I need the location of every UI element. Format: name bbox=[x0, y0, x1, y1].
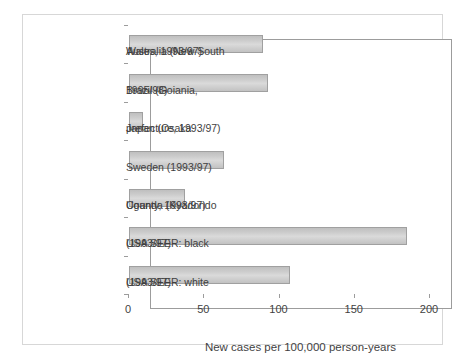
y-axis-tick bbox=[124, 25, 128, 26]
y-axis-tick bbox=[124, 256, 128, 257]
y-axis-tick bbox=[124, 217, 128, 218]
x-tick-label-200: 200 bbox=[404, 303, 454, 316]
category-label-line: Sweden (1993/97) bbox=[126, 160, 212, 175]
x-tick-label-50: 50 bbox=[178, 303, 228, 316]
category-label-line: (1993/97) bbox=[126, 236, 171, 251]
category-label-line: County, 1993/97) bbox=[126, 198, 206, 213]
y-axis-tick bbox=[124, 63, 128, 64]
y-axis-tick bbox=[124, 140, 128, 141]
x-tick-150 bbox=[354, 294, 355, 298]
x-tick-0 bbox=[128, 294, 129, 298]
x-tick-label-100: 100 bbox=[254, 303, 304, 316]
category-label-line: (1993/97) bbox=[126, 275, 171, 290]
x-tick-100 bbox=[279, 294, 280, 298]
category-label-line: prefecture, 1993/97) bbox=[126, 121, 221, 136]
category-label-line: Wales, 1993/97) bbox=[126, 44, 202, 59]
x-tick-200 bbox=[429, 294, 430, 298]
x-tick-label-150: 150 bbox=[329, 303, 379, 316]
y-axis-tick bbox=[124, 102, 128, 103]
x-axis-title: New cases per 100,000 person-years bbox=[150, 340, 451, 354]
category-label-line: 1995/98) bbox=[126, 83, 167, 98]
y-axis-tick bbox=[124, 294, 128, 295]
chart-figure-page: Australia (New SouthWales, 1993/97)Brazi… bbox=[0, 0, 459, 360]
chart-figure: Australia (New SouthWales, 1993/97)Brazi… bbox=[22, 14, 443, 345]
x-tick-label-0: 0 bbox=[103, 303, 153, 316]
y-axis-tick bbox=[124, 179, 128, 180]
x-tick-50 bbox=[203, 294, 204, 298]
